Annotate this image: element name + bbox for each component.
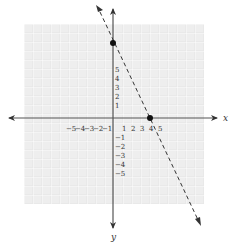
line-arrow-top-icon [96,5,103,12]
x-tick: 5 [158,125,162,133]
x-axis-label: x [223,113,228,123]
y-tick: 4 [115,75,120,83]
y-tick: 5 [115,66,119,74]
line-arrow-bottom-icon [195,217,201,226]
x-tick: 1 [122,125,126,133]
y-tick: −4 [115,161,126,169]
x-tick: 4 [149,125,154,133]
x-intercept-point [147,115,153,121]
y-tick: −2 [115,143,125,151]
y-tick: 3 [115,84,119,92]
y-tick: 1 [115,102,119,110]
y-intercept-point [110,40,116,46]
y-axis-label: y [110,232,117,242]
grid-background [24,24,204,204]
x-tick: 2 [131,125,135,133]
x-tick: −1 [102,125,112,133]
y-tick: −3 [115,152,125,160]
coordinate-plane: −5 −4 −3 −2 −1 1 2 3 4 5 5 4 3 2 1 −1 −2… [0,0,240,246]
y-tick: −5 [115,170,125,178]
y-tick: −1 [115,134,125,142]
x-tick: 3 [140,125,144,133]
y-tick: 2 [115,93,119,101]
